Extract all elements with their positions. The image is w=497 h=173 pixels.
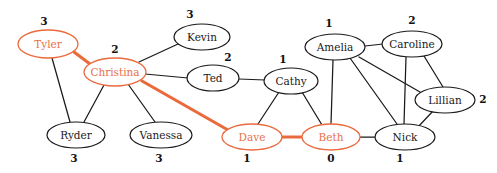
node-tyler[interactable]: Tyler	[18, 30, 78, 58]
node-label-lillian: Lillian	[428, 94, 462, 106]
node-label-caroline: Caroline	[389, 38, 434, 50]
node-label-tyler: Tyler	[34, 38, 63, 50]
node-weight-caroline: 2	[408, 14, 415, 26]
node-kevin[interactable]: Kevin	[174, 24, 230, 50]
edge-amelia-beth	[331, 60, 333, 124]
node-weight-dave: 1	[243, 152, 250, 164]
edge-caroline-lillian	[424, 56, 443, 87]
graph-canvas: TylerChristinaKevinTedCathyAmeliaCarolin…	[0, 0, 497, 173]
node-weight-beth: 0	[327, 152, 334, 164]
node-lillian[interactable]: Lillian	[415, 87, 475, 113]
node-label-cathy: Cathy	[275, 75, 306, 87]
edge-christina-ted	[145, 74, 188, 78]
edge-cathy-beth	[302, 92, 322, 125]
node-weight-cathy: 1	[279, 53, 286, 65]
node-caroline[interactable]: Caroline	[382, 31, 442, 57]
edge-amelia-caroline	[365, 44, 383, 46]
node-amelia[interactable]: Amelia	[305, 34, 365, 60]
node-label-beth: Beth	[319, 131, 344, 143]
node-label-vanessa: Vanessa	[139, 129, 183, 141]
edge-amelia-nick	[350, 58, 397, 124]
node-beth[interactable]: Beth	[302, 124, 360, 150]
edge-amelia-lillian	[359, 57, 420, 92]
node-weight-ted: 2	[224, 51, 231, 63]
node-dave[interactable]: Dave	[222, 124, 282, 150]
node-nick[interactable]: Nick	[375, 124, 435, 150]
node-label-dave: Dave	[239, 131, 266, 143]
edge-christina-ryder	[84, 85, 104, 122]
edge-tyler-christina	[74, 52, 90, 64]
node-weight-nick: 1	[396, 152, 403, 164]
node-weight-christina: 2	[111, 43, 118, 55]
node-weight-lillian: 2	[479, 93, 486, 105]
node-weight-amelia: 1	[325, 17, 332, 29]
node-label-ryder: Ryder	[60, 129, 93, 141]
node-ted[interactable]: Ted	[187, 65, 239, 91]
node-weight-tyler: 3	[40, 15, 47, 27]
edge-caroline-nick	[404, 57, 406, 124]
node-label-christina: Christina	[90, 66, 139, 78]
node-vanessa[interactable]: Vanessa	[130, 122, 192, 148]
node-ryder[interactable]: Ryder	[47, 122, 105, 148]
edge-christina-kevin	[139, 44, 178, 62]
node-label-ted: Ted	[203, 72, 222, 84]
edge-cathy-dave	[258, 92, 279, 124]
edge-lillian-nick	[418, 111, 433, 127]
node-label-nick: Nick	[393, 131, 418, 143]
node-weight-vanessa: 3	[155, 152, 162, 164]
node-label-kevin: Kevin	[187, 31, 217, 43]
nodes-layer: TylerChristinaKevinTedCathyAmeliaCarolin…	[18, 24, 475, 150]
edge-ted-cathy	[239, 79, 265, 80]
node-cathy[interactable]: Cathy	[264, 68, 318, 94]
node-weight-kevin: 3	[186, 8, 193, 20]
node-weight-ryder: 3	[70, 152, 77, 164]
graph-diagram: TylerChristinaKevinTedCathyAmeliaCarolin…	[0, 0, 497, 173]
node-label-amelia: Amelia	[316, 41, 354, 53]
edge-christina-vanessa	[128, 84, 155, 122]
edge-tyler-ryder	[52, 58, 70, 122]
node-christina[interactable]: Christina	[84, 58, 146, 86]
